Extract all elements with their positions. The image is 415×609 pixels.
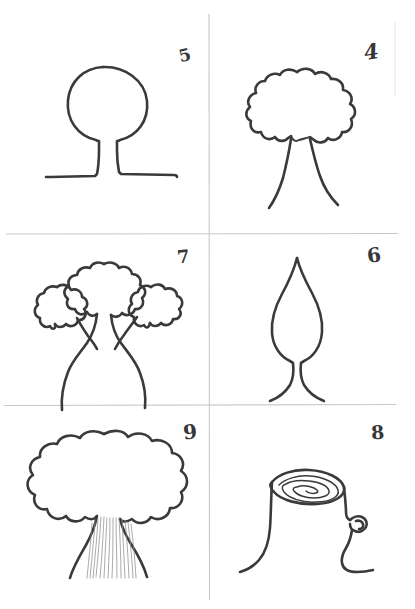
drawing-panel-6 — [270, 258, 324, 401]
canopy-teardrop-right — [297, 258, 324, 401]
canopy-broad-left — [28, 431, 104, 578]
trunk-notch — [291, 136, 310, 141]
canopy-scalloped — [297, 69, 355, 205]
panel-number-8: 8 — [370, 423, 385, 443]
trunk-center-left — [62, 314, 97, 410]
growth-rings — [279, 476, 338, 502]
sketch-canvas — [0, 0, 415, 609]
grid-horizontal-line-1 — [6, 234, 398, 235]
drawing-panel-9 — [28, 431, 187, 578]
branch-right — [115, 317, 137, 349]
leaf-cluster-left-outer — [35, 286, 57, 328]
branch-stub-inner — [356, 521, 363, 529]
stump-body-left — [240, 482, 272, 572]
panel-number-4: 4 — [362, 40, 380, 63]
panel-grid — [4, 14, 398, 600]
panel-number-6: 6 — [366, 244, 383, 266]
drawing-panel-7 — [35, 263, 182, 410]
grid-vertical-line — [209, 14, 210, 600]
canopy-trunk-left — [46, 67, 103, 177]
drawing-panel-8 — [240, 470, 373, 572]
panel-number-9: 9 — [182, 421, 198, 442]
canopy-teardrop-left — [270, 258, 297, 401]
canopy-scalloped-left — [246, 70, 297, 208]
drawing-panel-5 — [46, 67, 177, 177]
leaf-cluster-right — [150, 285, 182, 326]
stump-body-right — [344, 487, 350, 520]
trunk-hatching — [87, 517, 136, 578]
canopy-round — [103, 67, 177, 177]
leaf-cluster-left — [55, 285, 87, 327]
drawing-panel-4 — [246, 69, 355, 208]
sketch-sheet: 5 4 7 6 9 8 — [0, 0, 415, 609]
stump-root-right — [342, 530, 373, 572]
panel-number-7: 7 — [176, 247, 190, 266]
